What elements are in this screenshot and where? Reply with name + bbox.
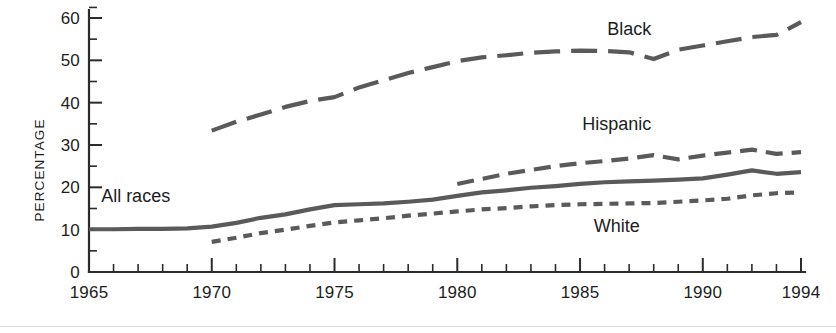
footer-divider	[0, 326, 836, 327]
series-label-white: White	[594, 216, 640, 236]
x-tick-label: 1970	[192, 283, 231, 302]
y-tick-label: 50	[61, 51, 80, 70]
x-tick-label: 1965	[70, 283, 109, 302]
y-axis-title-text: PERCENTAGE	[32, 118, 47, 221]
x-axis: 1965197019751980198519901994	[70, 258, 821, 302]
x-tick-label: 1980	[438, 283, 477, 302]
series-line-white	[212, 192, 801, 242]
y-tick-label: 60	[61, 9, 80, 28]
series-line-hispanic	[457, 150, 801, 184]
y-tick-label: 40	[61, 94, 80, 113]
series-label-black: Black	[607, 19, 652, 39]
series-label-all-races: All races	[101, 186, 170, 206]
x-tick-label: 1990	[683, 283, 722, 302]
x-tick-label: 1985	[561, 283, 600, 302]
x-tick-label: 1975	[315, 283, 354, 302]
y-tick-label: 20	[61, 178, 80, 197]
y-tick-label: 0	[70, 263, 80, 282]
x-tick-label: 1994	[782, 283, 821, 302]
y-axis-title: PERCENTAGE	[32, 118, 47, 221]
series-line-black	[212, 22, 801, 130]
chart-series-lines	[89, 22, 801, 242]
percentage-line-chart: 0102030405060 19651970197519801985199019…	[0, 0, 836, 333]
chart-container: 0102030405060 19651970197519801985199019…	[0, 0, 836, 333]
series-label-hispanic: Hispanic	[582, 114, 651, 134]
y-tick-label: 30	[61, 136, 80, 155]
y-tick-label: 10	[61, 221, 80, 240]
y-axis: 0102030405060	[61, 7, 102, 282]
